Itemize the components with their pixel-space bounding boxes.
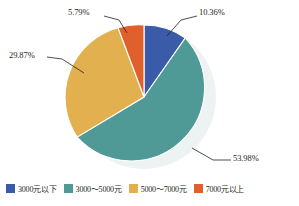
legend-label: 5000～7000元 — [141, 183, 187, 194]
pie-label-3000-below: 10.36% — [199, 7, 225, 17]
legend-label: 3000～5000元 — [76, 183, 122, 194]
pie-label-7000-above: 5.79% — [68, 7, 89, 17]
pie-chart-canvas — [0, 0, 299, 206]
pie-chart-figure: 5.79% 10.36% 29.87% 53.98% 3000元以下 3000～… — [0, 0, 299, 206]
legend-swatch-icon — [6, 184, 15, 193]
legend-item-7000-above[interactable]: 7000元以上 — [194, 183, 245, 194]
legend-swatch-icon — [194, 184, 203, 193]
pie-label-3000-5000: 53.98% — [233, 153, 259, 163]
legend-label: 3000元以下 — [18, 183, 57, 194]
legend-item-5000-7000[interactable]: 5000～7000元 — [129, 183, 187, 194]
legend-swatch-icon — [64, 184, 73, 193]
leader-line-3000-5000 — [192, 148, 231, 160]
chart-legend: 3000元以下 3000～5000元 5000～7000元 7000元以上 — [0, 180, 299, 196]
legend-label: 7000元以上 — [206, 183, 245, 194]
legend-swatch-icon — [129, 184, 138, 193]
legend-item-3000-below[interactable]: 3000元以下 — [6, 183, 57, 194]
legend-item-3000-5000[interactable]: 3000～5000元 — [64, 183, 122, 194]
pie-label-5000-7000: 29.87% — [9, 50, 35, 60]
